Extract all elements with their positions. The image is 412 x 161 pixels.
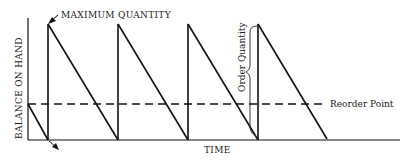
max-quantity-label: MAXIMUM QUANTITY (61, 10, 172, 20)
x-axis-label: TIME (204, 145, 231, 155)
inventory-sawtooth-diagram: MAXIMUM QUANTITY BALANCE ON HAND TIME Or… (0, 0, 412, 161)
order-quantity-brace (246, 26, 257, 136)
reorder-point-label: Reorder Point (330, 99, 394, 109)
stock-level-lines (28, 24, 327, 140)
y-axis-label: BALANCE ON HAND (14, 37, 24, 139)
max-quantity-arrow-icon (48, 15, 58, 24)
order-quantity-label: Order Quantity (237, 22, 247, 92)
zero-stock-arrow-icon (49, 141, 59, 150)
axes (28, 18, 400, 140)
